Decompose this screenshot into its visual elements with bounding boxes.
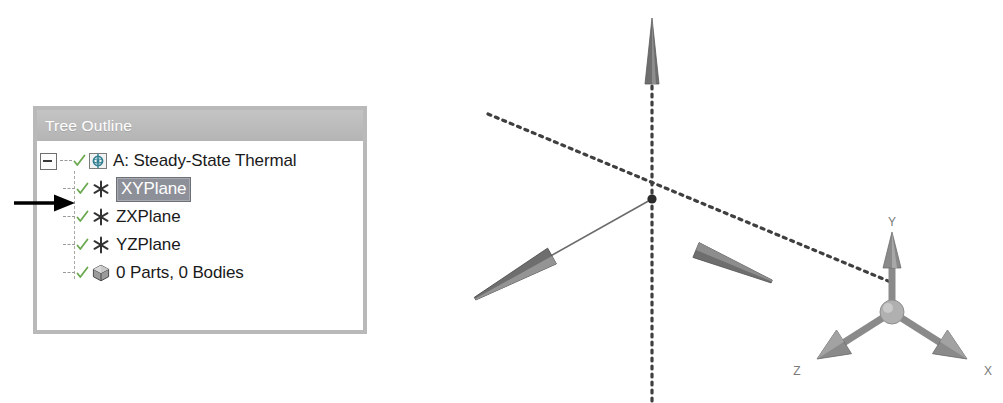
tree-row-parts-bodies[interactable]: 0 Parts, 0 Bodies — [37, 259, 363, 287]
tree-node-label-root: A: Steady-State Thermal — [113, 151, 297, 171]
tree-node-label-zxplane[interactable]: ZXPlane — [116, 207, 181, 227]
green-check-icon — [76, 210, 89, 224]
tree-outline-panel: Tree Outline A: Steady-Sta — [33, 106, 367, 334]
green-check-icon — [76, 266, 89, 280]
tree-connector — [60, 160, 72, 162]
tree-row-xyplane[interactable]: XYPlane — [37, 175, 363, 203]
tree-outline-title-bar: Tree Outline — [37, 110, 363, 141]
steady-state-thermal-icon — [88, 151, 108, 171]
tree-row-root[interactable]: A: Steady-State Thermal — [37, 147, 363, 175]
tree-connector — [63, 188, 75, 190]
triad-x-arrowhead — [932, 330, 974, 371]
green-check-icon — [76, 238, 89, 252]
3d-graphics-viewport[interactable]: Y Z X — [380, 0, 1003, 403]
tree-connector — [63, 244, 75, 246]
green-check-icon — [76, 182, 89, 196]
tree-node-label-xyplane[interactable]: XYPlane — [116, 177, 191, 202]
annotation-arrow — [14, 192, 76, 214]
tree-row-yzplane[interactable]: YZPlane — [37, 231, 363, 259]
triad-label-y: Y — [888, 215, 896, 229]
tree-connector — [63, 216, 75, 218]
triad-hub — [880, 300, 904, 324]
plane-asterisk-icon — [91, 179, 111, 199]
plane-asterisk-icon — [91, 235, 111, 255]
tree-row-zxplane[interactable]: ZXPlane — [37, 203, 363, 231]
collapse-minus-icon[interactable] — [40, 153, 57, 170]
triad-label-z: Z — [793, 364, 800, 378]
tree-outline-title: Tree Outline — [45, 117, 132, 135]
tree-outline-body: A: Steady-State Thermal XYPlane — [37, 141, 363, 287]
triad-z-arrowhead — [809, 330, 851, 371]
triad-label-x: X — [984, 364, 992, 378]
tree-connector — [63, 272, 75, 274]
plane-asterisk-icon — [91, 207, 111, 227]
tree-node-label-parts-bodies[interactable]: 0 Parts, 0 Bodies — [116, 263, 244, 283]
green-check-icon — [73, 154, 86, 168]
coordinate-triad: Y Z X — [380, 0, 1003, 403]
tree-node-label-yzplane[interactable]: YZPlane — [116, 235, 181, 255]
parts-bodies-cube-icon — [91, 263, 111, 283]
